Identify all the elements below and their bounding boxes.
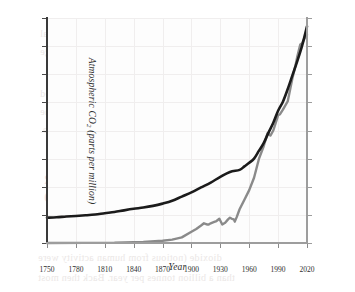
tick-mark-y-left bbox=[42, 131, 46, 132]
tick-mark-y-right bbox=[308, 74, 312, 75]
tick-mark-x bbox=[163, 244, 164, 248]
y-axis-left-title-suffix: (parts per million) bbox=[87, 127, 97, 204]
axis-spine-bottom bbox=[46, 242, 308, 244]
tick-mark-y-right bbox=[308, 187, 312, 188]
tick-mark-x bbox=[191, 244, 192, 248]
tick-mark-x bbox=[249, 244, 250, 248]
tick-mark-y-right bbox=[308, 243, 312, 244]
y-axis-left-title-subscript: 2 bbox=[86, 124, 93, 128]
tick-mark-y-left bbox=[42, 102, 46, 103]
y-axis-left-title: Atmospheric CO2 (parts per million) bbox=[86, 57, 97, 204]
tick-mark-x bbox=[307, 244, 308, 248]
tick-mark-y-right bbox=[308, 46, 312, 47]
y-axis-left-title-prefix: Atmospheric CO bbox=[87, 57, 97, 123]
tick-mark-x bbox=[278, 244, 279, 248]
tick-mark-y-right bbox=[308, 159, 312, 160]
tick-mark-x bbox=[220, 244, 221, 248]
tick-mark-y-left bbox=[42, 243, 46, 244]
tick-mark-y-right bbox=[308, 131, 312, 132]
tick-mark-y-left bbox=[42, 187, 46, 188]
plot-area: 2602803003203403603804004200510152025303… bbox=[47, 18, 307, 243]
tick-mark-x bbox=[105, 244, 106, 248]
tick-mark-x bbox=[76, 244, 77, 248]
tick-mark-y-right bbox=[308, 215, 312, 216]
co2-dual-axis-chart: 2602803003203403603804004200510152025303… bbox=[0, 0, 355, 292]
tick-mark-x bbox=[134, 244, 135, 248]
tick-mark-y-left bbox=[42, 46, 46, 47]
tick-mark-x bbox=[47, 244, 48, 248]
axis-spine-left bbox=[46, 17, 48, 244]
tick-mark-y-right bbox=[308, 102, 312, 103]
tick-mark-y-left bbox=[42, 215, 46, 216]
x-axis-title: Year bbox=[0, 262, 355, 272]
tick-mark-y-left bbox=[42, 159, 46, 160]
tick-mark-y-right bbox=[308, 18, 312, 19]
tick-mark-y-left bbox=[42, 74, 46, 75]
tick-mark-y-left bbox=[42, 18, 46, 19]
